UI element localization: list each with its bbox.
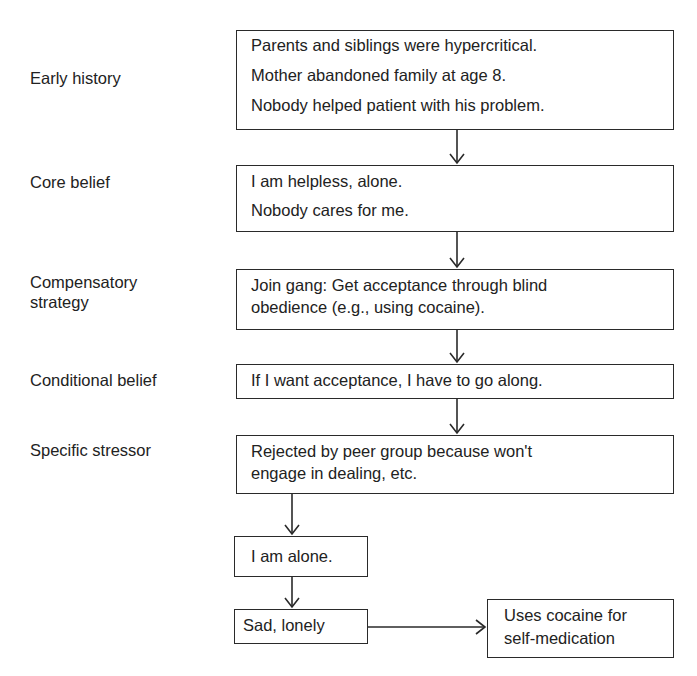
- label-compensatory-strategy-line2: strategy: [30, 292, 89, 312]
- automatic-thought-box: I am alone.: [234, 536, 368, 577]
- label-compensatory-strategy-line1: Compensatory: [30, 272, 137, 292]
- label-core-belief: Core belief: [30, 172, 110, 192]
- core-belief-line-1: I am helpless, alone.: [251, 172, 402, 191]
- specific-stressor-line-1: Rejected by peer group because won't: [251, 442, 532, 461]
- label-specific-stressor: Specific stressor: [30, 440, 151, 460]
- conditional-belief-box: If I want acceptance, I have to go along…: [236, 364, 674, 399]
- label-early-history: Early history: [30, 68, 121, 88]
- early-history-box: Parents and siblings were hypercritical.…: [236, 30, 674, 130]
- early-history-line-3: Nobody helped patient with his problem.: [251, 96, 545, 115]
- compensatory-strategy-line-2: obedience (e.g., using cocaine).: [251, 298, 485, 317]
- behavior-box: Uses cocaine for self-medication: [487, 599, 674, 658]
- specific-stressor-line-2: engage in dealing, etc.: [251, 464, 417, 483]
- core-belief-box: I am helpless, alone. Nobody cares for m…: [236, 165, 674, 232]
- behavior-line-1: Uses cocaine for: [504, 606, 627, 625]
- emotion-box: Sad, lonely: [234, 609, 368, 644]
- compensatory-strategy-box: Join gang: Get acceptance through blind …: [236, 269, 674, 330]
- early-history-line-1: Parents and siblings were hypercritical.: [251, 36, 537, 55]
- label-conditional-belief: Conditional belief: [30, 370, 157, 390]
- behavior-line-2: self-medication: [504, 629, 615, 648]
- conditional-belief-line-1: If I want acceptance, I have to go along…: [251, 371, 543, 390]
- arrowhead-history-to-core: [450, 154, 464, 163]
- cognitive-conceptualization-diagram: Early history Core belief Compensatory s…: [0, 0, 697, 676]
- core-belief-line-2: Nobody cares for me.: [251, 201, 409, 220]
- compensatory-strategy-line-1: Join gang: Get acceptance through blind: [251, 276, 547, 295]
- specific-stressor-box: Rejected by peer group because won't eng…: [236, 435, 674, 494]
- emotion-text: Sad, lonely: [243, 616, 325, 635]
- automatic-thought-text: I am alone.: [251, 547, 333, 566]
- early-history-line-2: Mother abandoned family at age 8.: [251, 66, 506, 85]
